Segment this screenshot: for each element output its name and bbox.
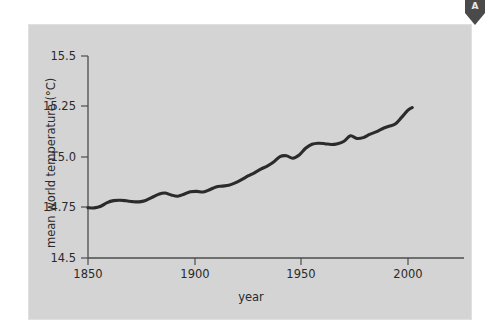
y-tick-label-15-5: 15.5 [34, 50, 76, 62]
x-tick-label-1900: 1900 [170, 268, 220, 280]
x-tick-label-1850: 1850 [63, 268, 113, 280]
corner-pennant-marker: A [463, 0, 487, 26]
temperature-series-line [88, 108, 412, 208]
y-axis-title: mean world temperature (°C) [44, 78, 58, 248]
y-tick-label-14-5: 14.5 [34, 252, 76, 264]
x-axis-ticks [88, 258, 408, 265]
pennant-letter: A [463, 1, 487, 11]
x-axis-title: year [176, 290, 326, 304]
x-tick-label-2000: 2000 [383, 268, 433, 280]
y-axis-ticks [81, 56, 88, 258]
x-tick-label-1950: 1950 [276, 268, 326, 280]
chart-panel: 15.5 15.25 15.0 14.75 14.5 1850 1900 195… [28, 24, 472, 320]
